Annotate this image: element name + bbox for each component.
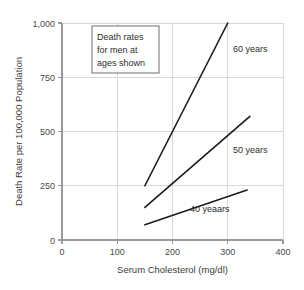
x-tick-label-0: 0 <box>59 247 64 257</box>
y-tick-label-500: 500 <box>40 127 55 137</box>
y-axis-title: Death Rate per 100,000 Population <box>13 57 24 206</box>
y-tick-label-250: 250 <box>40 181 55 191</box>
series-label-40-years: 40 yeaars <box>190 204 230 214</box>
y-tick-label-750: 750 <box>40 73 55 83</box>
legend-line-2: for men at <box>97 45 138 55</box>
legend-line-3: ages shown <box>97 58 145 68</box>
legend-line-1: Death rates <box>97 32 144 42</box>
x-tick-label-400: 400 <box>275 247 290 257</box>
chart-figure: 1,000 750 500 250 0 0 100 200 300 400 Se… <box>0 0 304 290</box>
series-label-60-years: 60 years <box>233 44 268 54</box>
x-tick-label-300: 300 <box>220 247 235 257</box>
y-tick-label-0: 0 <box>50 236 55 246</box>
x-tick-label-200: 200 <box>165 247 180 257</box>
series-label-50-years: 50 years <box>233 145 268 155</box>
x-tick-label-100: 100 <box>110 247 125 257</box>
x-axis-title: Serum Cholesterol (mg/dl) <box>117 264 228 275</box>
y-tick-label-1000: 1,000 <box>32 19 55 29</box>
line-chart: 1,000 750 500 250 0 0 100 200 300 400 Se… <box>0 0 304 290</box>
